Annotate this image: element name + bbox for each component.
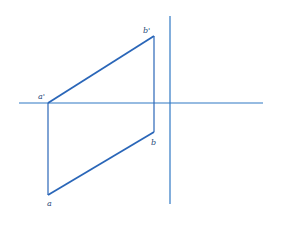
projection-diagram: a' b' b a bbox=[0, 0, 281, 226]
label-a-prime: a' bbox=[38, 92, 45, 101]
line-a-prime-b-prime bbox=[48, 36, 154, 103]
label-a: a bbox=[47, 199, 52, 208]
label-b: b bbox=[151, 138, 156, 147]
line-a-b bbox=[48, 132, 154, 195]
label-b-prime: b' bbox=[143, 26, 150, 35]
